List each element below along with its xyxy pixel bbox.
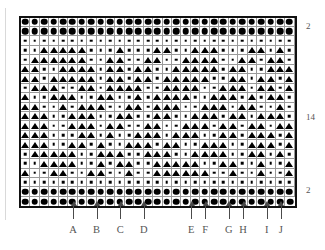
chart-cell [266,159,275,168]
chart-cell [248,140,257,149]
chart-cell [134,93,143,102]
chart-cell [285,187,294,196]
chart-cell [106,150,115,159]
chart-cell [144,84,153,93]
chart-cell [266,18,275,27]
chart-cell [229,46,238,55]
chart-cell [49,27,58,36]
chart-cell [257,150,266,159]
chart-cell [40,150,49,159]
chart-cell [115,65,124,74]
chart-cell [210,140,219,149]
chart-cell [40,46,49,55]
chart-cell [21,131,30,140]
chart-cell [257,27,266,36]
chart-cell [238,121,247,130]
chart-cell [49,55,58,64]
chart-cell [191,112,200,121]
chart-cell [191,27,200,36]
chart-cell [106,140,115,149]
chart-cell [106,74,115,83]
chart-cell [163,112,172,121]
chart-cell [153,55,162,64]
chart-cell [68,159,77,168]
column-marker-label-i: I [265,225,269,236]
chart-cell [248,74,257,83]
chart-cell [257,140,266,149]
chart-cell [68,55,77,64]
chart-cell [40,18,49,27]
chart-cell [134,112,143,121]
chart-cell [144,55,153,64]
chart-cell [153,36,162,45]
chart-cell [191,74,200,83]
chart-cell [191,150,200,159]
chart-cell [210,18,219,27]
chart-cell [172,18,181,27]
chart-cell [191,93,200,102]
chart-cell [21,55,30,64]
chart-cell [276,55,285,64]
chart-cell [219,65,228,74]
chart-cell [229,103,238,112]
chart-cell [238,178,247,187]
chart-cell [285,131,294,140]
chart-cell [78,27,87,36]
chart-cell [266,46,275,55]
chart-cell [210,121,219,130]
row-group-label-2: 14 [306,113,315,122]
chart-cell [59,46,68,55]
chart-cell [115,84,124,93]
chart-cell [219,150,228,159]
chart-cell [163,27,172,36]
chart-cell [210,103,219,112]
chart-cell [125,65,134,74]
chart-cell [106,84,115,93]
chart-cell [181,131,190,140]
chart-cell [125,131,134,140]
chart-cell [49,74,58,83]
chart-cell [229,159,238,168]
chart-cell [153,150,162,159]
chart-cell [68,150,77,159]
chart-cell [144,178,153,187]
chart-cell [181,74,190,83]
chart-cell [30,84,39,93]
chart-cell [210,169,219,178]
chart-cell [285,36,294,45]
chart-cell [172,121,181,130]
chart-cell [266,169,275,178]
chart-cell [172,150,181,159]
chart-cell [78,46,87,55]
chart-cell [49,169,58,178]
chart-cell [257,36,266,45]
chart-page: 2142 ABCDEFGHIJ [0,0,325,250]
chart-cell [266,74,275,83]
chart-cell [200,121,209,130]
chart-cell [68,121,77,130]
chart-cell [40,178,49,187]
chart-cell [30,65,39,74]
chart-cell [172,84,181,93]
chart-cell [181,178,190,187]
chart-cell [248,187,257,196]
chart-cell [285,140,294,149]
chart-cell [78,55,87,64]
chart-cell [172,131,181,140]
chart-cell [285,150,294,159]
chart-cell [115,46,124,55]
chart-cell [40,93,49,102]
chart-cell [219,187,228,196]
chart-cell [78,84,87,93]
chart-cell [219,36,228,45]
chart-cell [125,169,134,178]
chart-cell [191,55,200,64]
chart-cell [266,55,275,64]
chart-cell [59,121,68,130]
chart-cell [153,121,162,130]
chart-cell [200,55,209,64]
chart-cell [59,18,68,27]
chart-cell [257,18,266,27]
chart-cell [125,159,134,168]
chart-cell [59,103,68,112]
